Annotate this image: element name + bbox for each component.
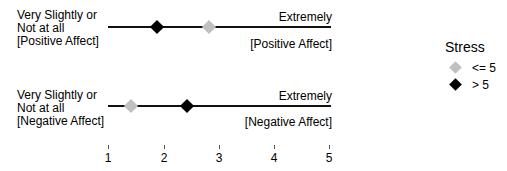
- x-tick-label: 5: [319, 151, 339, 165]
- marker-high-stress-positive: [150, 20, 164, 34]
- positive-left-label: Very Slightly or Not at all [Positive Af…: [17, 9, 99, 48]
- x-tick: [164, 145, 165, 149]
- positive-right-bottom-label: [Positive Affect]: [250, 38, 332, 51]
- negative-affect-line: [108, 105, 331, 107]
- marker-high-stress-negative: [180, 99, 194, 113]
- x-tick-label: 1: [98, 151, 118, 165]
- legend-diamond-icon-low: [449, 61, 462, 74]
- x-tick-label: 3: [209, 151, 229, 165]
- legend-diamond-icon-high: [449, 78, 462, 91]
- positive-affect-line: [108, 26, 331, 28]
- legend-title: Stress: [445, 39, 485, 55]
- marker-low-stress-positive: [202, 20, 216, 34]
- negative-right-top-label: Extremely: [279, 90, 332, 103]
- negative-right-bottom-label: [Negative Affect]: [245, 116, 332, 129]
- marker-low-stress-negative: [124, 99, 138, 113]
- x-tick-label: 2: [154, 151, 174, 165]
- legend-label-low: <= 5: [472, 61, 496, 75]
- positive-right-top-label: Extremely: [279, 11, 332, 24]
- x-tick: [329, 145, 330, 149]
- x-tick: [108, 145, 109, 149]
- x-tick: [219, 145, 220, 149]
- negative-left-label: Very Slightly or Not at all [Negative Af…: [17, 89, 104, 128]
- x-tick-label: 4: [264, 151, 284, 165]
- x-tick: [274, 145, 275, 149]
- legend-label-high: > 5: [472, 78, 489, 92]
